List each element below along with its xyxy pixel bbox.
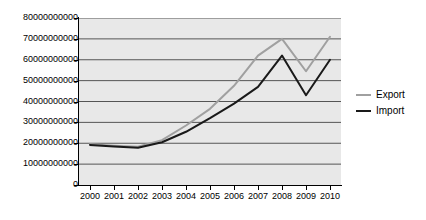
legend-item-import: Import (356, 104, 405, 118)
x-tick-mark (306, 186, 307, 190)
x-tick-mark (258, 186, 259, 190)
x-tick-mark (210, 186, 211, 190)
x-tick-mark (138, 186, 139, 190)
y-tick-label: 30000000000 (23, 117, 78, 126)
plot-area (79, 18, 341, 185)
x-tick-mark (330, 186, 331, 190)
legend-label-import: Import (376, 106, 404, 116)
gridlines (79, 18, 341, 164)
y-tick-label: 60000000000 (23, 55, 78, 64)
y-tick-label: 50000000000 (23, 76, 78, 85)
y-tick-label: 70000000000 (23, 34, 78, 43)
legend-item-export: Export (356, 88, 405, 102)
y-tick-label: 80000000000 (23, 13, 78, 22)
y-tick-label: 40000000000 (23, 97, 78, 106)
x-tick-mark (162, 186, 163, 190)
legend-swatch-export (356, 94, 371, 96)
legend-label-export: Export (376, 90, 405, 100)
x-tick-mark (90, 186, 91, 190)
series-lines (90, 37, 330, 148)
x-tick-label: 2010 (315, 191, 345, 201)
x-tick-mark (186, 186, 187, 190)
chart-legend: Export Import (356, 88, 405, 120)
line-chart: 0100000000002000000000030000000000400000… (0, 0, 426, 220)
y-tick-label: 20000000000 (23, 138, 78, 147)
x-tick-mark (282, 186, 283, 190)
series-line-export (90, 37, 330, 147)
plot-svg (79, 18, 341, 185)
x-tick-mark (114, 186, 115, 190)
legend-swatch-import (356, 110, 371, 112)
x-tick-mark (234, 186, 235, 190)
y-tick-label: 10000000000 (23, 159, 78, 168)
y-tick-label: 0 (73, 180, 78, 189)
